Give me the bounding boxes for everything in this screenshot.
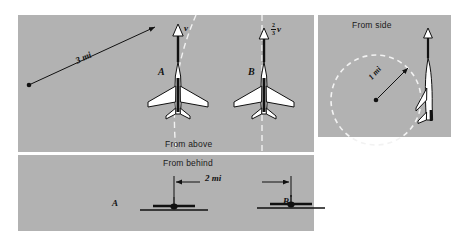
label-aircraft-a-plan: A — [158, 66, 165, 77]
label-velocity-a: v — [184, 23, 188, 33]
caption-from-above: From above — [165, 139, 212, 149]
label-distance-2mi: 2 mi — [205, 173, 221, 183]
velocity-symbol-b: v — [277, 24, 281, 34]
fraction-two-thirds: 2 3 — [271, 22, 276, 36]
label-velocity-b: 2 3 v — [271, 22, 281, 36]
panel-from-side — [318, 15, 451, 137]
figure-canvas: From above From behind From side v A B A… — [0, 0, 453, 233]
label-aircraft-b-rear: B — [283, 196, 289, 206]
label-aircraft-b-plan: B — [248, 66, 255, 77]
fraction-denominator: 3 — [272, 30, 275, 36]
caption-from-side: From side — [352, 20, 392, 30]
panel-from-above — [18, 15, 314, 152]
fraction-numerator: 2 — [272, 22, 275, 28]
label-aircraft-a-rear: A — [112, 198, 118, 208]
caption-from-behind: From behind — [163, 158, 213, 168]
